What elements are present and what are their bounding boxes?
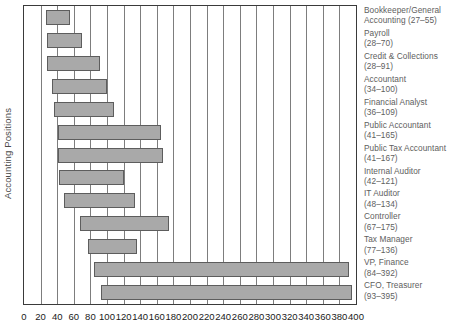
x-axis-tick-label: 320 <box>282 311 298 322</box>
category-label: Credit & Collections(28–91) <box>364 51 463 72</box>
category-label: CFO, Treasurer(93–395) <box>364 280 463 301</box>
x-axis-tick-label: 20 <box>35 311 46 322</box>
bar <box>59 170 125 185</box>
x-axis-tick-label: 360 <box>315 311 331 322</box>
category-label-line: Internal Auditor <box>364 166 463 176</box>
category-label-line: (42–121) <box>364 176 463 186</box>
gridline <box>256 6 257 304</box>
category-label-line: (41–167) <box>364 153 463 163</box>
x-axis-tick-label: 80 <box>85 311 96 322</box>
category-label-line: Tax Manager <box>364 234 463 244</box>
category-label-line: Accountant <box>364 74 463 84</box>
x-axis-tick-label: 100 <box>99 311 115 322</box>
category-label-list: Bookkeeper/GeneralAccounting (27–55)Payr… <box>364 5 463 305</box>
category-label-line: (77–136) <box>364 245 463 255</box>
category-label-line: Public Tax Accountant <box>364 143 463 153</box>
category-label: IT Auditor(48–134) <box>364 188 463 209</box>
x-axis-tick-labels: 0204060801001201401601802002202402602803… <box>23 306 357 328</box>
gridline <box>173 6 174 304</box>
category-label-line: (28–91) <box>364 61 463 71</box>
gridline <box>339 6 340 304</box>
category-label-line: Financial Analyst <box>364 97 463 107</box>
category-label-line: (93–395) <box>364 291 463 301</box>
bar <box>47 33 82 48</box>
category-label-line: (48–134) <box>364 199 463 209</box>
x-axis-tick-label: 340 <box>298 311 314 322</box>
category-label-line: (67–175) <box>364 222 463 232</box>
x-axis-tick-label: 140 <box>132 311 148 322</box>
y-axis-title: Accounting Positions <box>0 0 16 306</box>
gridline <box>41 6 42 304</box>
gridline <box>223 6 224 304</box>
y-axis-title-label: Accounting Positions <box>3 107 14 198</box>
category-label-line: (41–165) <box>364 130 463 140</box>
bar <box>64 193 135 208</box>
x-axis-tick-label: 260 <box>232 311 248 322</box>
bar <box>46 10 69 25</box>
x-axis-tick-label: 240 <box>215 311 231 322</box>
category-label: Financial Analyst(36–109) <box>364 97 463 118</box>
x-axis-tick-label: 400 <box>348 311 364 322</box>
category-label-line: (28–70) <box>364 38 463 48</box>
category-label: Payroll(28–70) <box>364 28 463 49</box>
bar <box>94 262 350 277</box>
category-label-line: Bookkeeper/General <box>364 5 463 15</box>
category-label-line: Controller <box>364 211 463 221</box>
bar <box>101 285 352 300</box>
category-label-line: (84–392) <box>364 268 463 278</box>
bar <box>58 125 161 140</box>
accounting-positions-range-chart: Accounting Positions 0204060801001201401… <box>0 0 463 332</box>
gridline <box>190 6 191 304</box>
gridline <box>240 6 241 304</box>
category-label-line: Payroll <box>364 28 463 38</box>
category-label: VP, Finance(84–392) <box>364 257 463 278</box>
x-axis-tick-label: 300 <box>265 311 281 322</box>
category-label: Tax Manager(77–136) <box>364 234 463 255</box>
plot-area <box>23 5 357 305</box>
category-label: Controller(67–175) <box>364 211 463 232</box>
bar <box>88 239 137 254</box>
category-label-line: IT Auditor <box>364 188 463 198</box>
x-axis-tick-label: 380 <box>331 311 347 322</box>
gridline <box>323 6 324 304</box>
category-label-line: VP, Finance <box>364 257 463 267</box>
bar <box>54 102 115 117</box>
x-axis-tick-label: 280 <box>248 311 264 322</box>
category-label-line: (34–100) <box>364 84 463 94</box>
category-label-line: CFO, Treasurer <box>364 280 463 290</box>
gridline <box>290 6 291 304</box>
gridline <box>306 6 307 304</box>
category-label-line: Accounting (27–55) <box>364 15 463 25</box>
gridline <box>207 6 208 304</box>
gridline <box>273 6 274 304</box>
x-axis-tick-label: 160 <box>149 311 165 322</box>
x-axis-tick-label: 120 <box>116 311 132 322</box>
category-label: Public Accountant(41–165) <box>364 120 463 141</box>
bar <box>52 79 107 94</box>
category-label-line: (36–109) <box>364 107 463 117</box>
bar <box>58 148 163 163</box>
x-axis-tick-label: 180 <box>165 311 181 322</box>
category-label: Public Tax Accountant(41–167) <box>364 143 463 164</box>
category-label: Bookkeeper/GeneralAccounting (27–55) <box>364 5 463 26</box>
category-label-line: Credit & Collections <box>364 51 463 61</box>
category-label: Internal Auditor(42–121) <box>364 166 463 187</box>
category-label: Accountant(34–100) <box>364 74 463 95</box>
x-axis-tick-label: 40 <box>52 311 63 322</box>
x-axis-tick-label: 200 <box>182 311 198 322</box>
x-axis-tick-label: 220 <box>199 311 215 322</box>
category-label-line: Public Accountant <box>364 120 463 130</box>
bar <box>47 56 99 71</box>
bar <box>80 216 170 231</box>
x-axis-tick-label: 60 <box>69 311 80 322</box>
x-axis-tick-label: 0 <box>21 311 26 322</box>
